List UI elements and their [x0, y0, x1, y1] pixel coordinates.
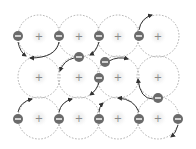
electron — [54, 31, 64, 41]
motion-arrow-icon — [139, 15, 152, 30]
motion-arrow-icon — [18, 42, 26, 56]
electron — [94, 31, 104, 41]
electron — [74, 52, 84, 62]
plus-icon: + — [35, 72, 43, 83]
electron — [13, 114, 23, 124]
positive-ion: + — [18, 97, 60, 139]
plus-icon: + — [75, 72, 83, 83]
minus-icon — [15, 35, 21, 36]
minus-icon — [155, 97, 161, 98]
minus-icon — [56, 35, 62, 36]
minus-icon — [136, 35, 142, 36]
electron — [100, 57, 110, 67]
minus-icon — [56, 118, 62, 119]
plus-icon: + — [114, 113, 122, 124]
positive-ion: + — [18, 56, 60, 98]
positive-ion: + — [18, 15, 60, 57]
electron — [153, 93, 163, 103]
metallic-bonding-diagram: ++++++++++++ — [0, 0, 196, 149]
plus-icon: + — [35, 31, 43, 42]
electron — [94, 114, 104, 124]
motion-arrow-icon — [18, 99, 32, 112]
minus-icon — [102, 61, 108, 62]
electron — [173, 114, 183, 124]
motion-arrow-icon — [59, 99, 72, 112]
motion-arrow-icon — [30, 42, 59, 58]
minus-icon — [175, 118, 181, 119]
plus-icon: + — [154, 72, 162, 83]
electron — [54, 114, 64, 124]
electron — [134, 31, 144, 41]
electron — [94, 73, 104, 83]
minus-icon — [136, 118, 142, 119]
motion-arrow-icon — [109, 58, 128, 61]
positive-ion: + — [137, 56, 179, 98]
motion-arrow-icon — [60, 58, 74, 71]
plus-icon: + — [114, 31, 122, 42]
minus-icon — [96, 118, 102, 119]
electron — [134, 114, 144, 124]
minus-icon — [15, 118, 21, 119]
positive-ion: + — [58, 15, 100, 57]
minus-icon — [96, 77, 102, 78]
electron — [13, 31, 23, 41]
motion-arrow-icon — [99, 103, 103, 112]
plus-icon: + — [75, 113, 83, 124]
minus-icon — [76, 56, 82, 57]
plus-icon: + — [154, 31, 162, 42]
plus-icon: + — [114, 72, 122, 83]
motion-arrow-icon — [90, 82, 99, 95]
diagram-canvas: ++++++++++++ — [0, 0, 196, 149]
plus-icon: + — [75, 31, 83, 42]
minus-icon — [96, 35, 102, 36]
plus-icon: + — [154, 113, 162, 124]
plus-icon: + — [35, 113, 43, 124]
